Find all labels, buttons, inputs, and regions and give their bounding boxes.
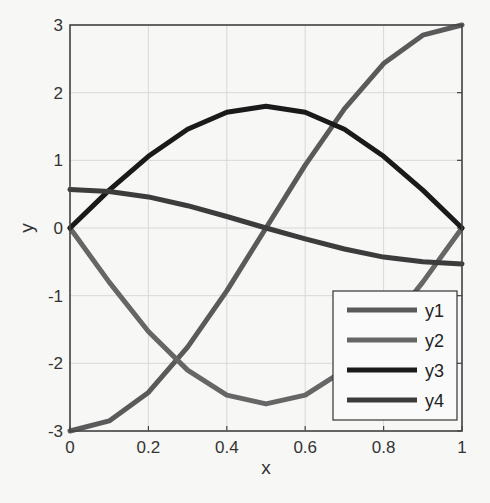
x-tick-label: 0.2 (137, 438, 161, 457)
x-tick-labels: 00.20.40.60.81 (65, 438, 466, 457)
x-tick-label: 0.6 (293, 438, 317, 457)
x-tick-label: 1 (457, 438, 466, 457)
series-line-y4 (70, 189, 462, 264)
y-axis-label: y (16, 223, 37, 233)
y-tick-label: 1 (54, 151, 63, 170)
x-tick-label: 0 (65, 438, 74, 457)
series-line-y3 (70, 106, 462, 228)
legend: y1y2y3y4 (333, 291, 457, 420)
legend-label-y1: y1 (425, 301, 444, 321)
y-tick-label: -2 (48, 354, 63, 373)
legend-label-y4: y4 (425, 391, 444, 411)
y-tick-labels: -3-2-10123 (48, 16, 63, 441)
x-axis-label: x (261, 457, 271, 478)
y-tick-label: 0 (54, 219, 63, 238)
x-tick-label: 0.4 (215, 438, 239, 457)
y-tick-label: -1 (48, 287, 63, 306)
x-tick-label: 0.8 (372, 438, 396, 457)
y-tick-label: -3 (48, 422, 63, 441)
y-tick-label: 2 (54, 84, 63, 103)
line-chart: 00.20.40.60.81 -3-2-10123 x y y1y2y3y4 (0, 0, 490, 503)
legend-label-y3: y3 (425, 361, 444, 381)
legend-label-y2: y2 (425, 331, 444, 351)
y-tick-label: 3 (54, 16, 63, 35)
